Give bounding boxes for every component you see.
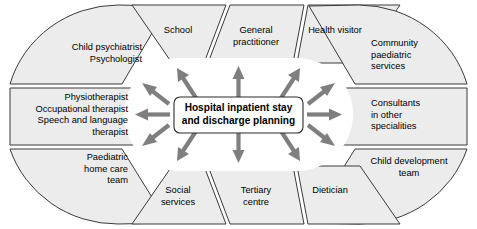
segment-consultants-in-other-specialities[interactable]: [343, 88, 467, 145]
center-node-label: Hospital inpatient stay and discharge pl…: [174, 102, 303, 127]
segment-therapists[interactable]: [10, 88, 134, 145]
diagram-canvas: Child psychiatrist Psychologist School G…: [0, 0, 477, 229]
